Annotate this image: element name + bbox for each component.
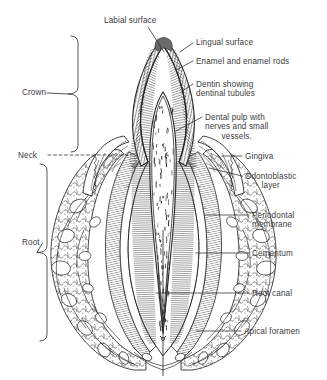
label-apical-foramen: Apical foramen [244,327,300,336]
label-lingual-surface: Lingual surface [196,38,253,47]
label-enamel-rods-line-0: Enamel and enamel rods [196,57,289,66]
label-labial-surface: Labial surface [104,16,156,25]
label-dentin-tubules-line-1: dentinal tubules [196,89,255,98]
label-cementum: Cementum [252,249,293,258]
bracket-root [37,164,47,341]
label-dentin-tubules-line-0: Dentin showing [196,80,255,89]
label-root-canal-line-0: Root canal [252,289,292,298]
label-dental-pulp-line-0: Dental pulp with [205,113,269,122]
label-periodontal-line-1: membrane [252,220,295,229]
label-dentin-tubules: Dentin showingdentinal tubules [196,80,255,99]
label-enamel-rods: Enamel and enamel rods [196,57,289,66]
bracket-label-root: Root [22,238,40,247]
label-apical-foramen-line-0: Apical foramen [244,327,300,336]
label-dental-pulp: Dental pulp withnerves and smallvessels. [205,113,269,141]
bracket-label-crown: Crown [22,88,46,97]
bracket-leader-crown [47,93,68,94]
label-cementum-line-0: Cementum [252,249,293,258]
label-odontoblastic: Odontoblasticlayer [245,172,296,191]
bracket-crown [68,36,78,152]
label-dental-pulp-line-2: vessels. [205,132,269,141]
label-root-canal: Root canal [252,289,292,298]
label-gingiva-line-0: Gingiva [245,152,273,161]
label-neck: Neck [18,151,37,160]
label-odontoblastic-line-1: layer [245,181,296,190]
tooth-cross-section-figure: Labial surfaceNeckLingual surfaceEnamel … [0,0,327,380]
label-dental-pulp-line-1: nerves and small [205,122,269,131]
label-gingiva: Gingiva [245,152,273,161]
label-periodontal: Periodontalmembrane [252,211,295,230]
label-labial-surface-line-0: Labial surface [104,16,156,25]
label-lingual-surface-line-0: Lingual surface [196,38,253,47]
label-periodontal-line-0: Periodontal [252,211,295,220]
label-neck-line-0: Neck [18,151,37,160]
label-odontoblastic-line-0: Odontoblastic [245,172,296,181]
